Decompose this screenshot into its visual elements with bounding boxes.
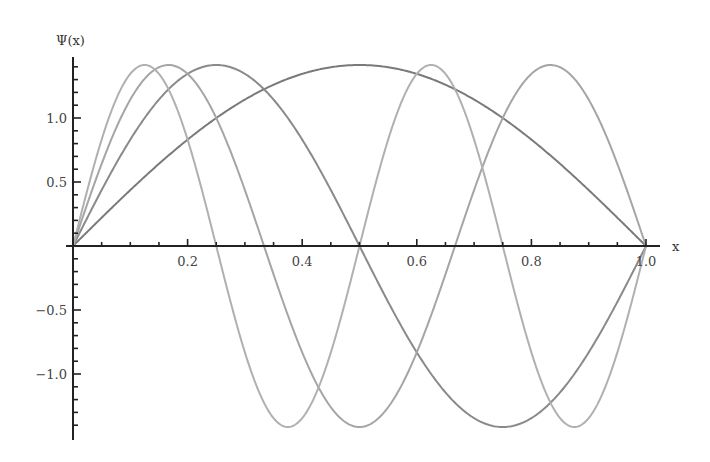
curve-n-1	[73, 65, 646, 246]
y-tick-label: 0.5	[46, 175, 67, 190]
y-tick-label: 1.0	[46, 111, 67, 126]
x-tick-label: 0.4	[292, 254, 313, 269]
x-tick-label: 0.2	[177, 254, 198, 269]
chart: 0.20.40.60.81.0 −1.0−0.50.51.0 x Ψ(x)	[0, 0, 710, 462]
x-tick-label: 0.8	[521, 254, 542, 269]
axes: 0.20.40.60.81.0 −1.0−0.50.51.0	[35, 57, 660, 440]
x-tick-label: 1.0	[636, 254, 657, 269]
y-tick-label: −1.0	[35, 367, 67, 382]
x-tick-label: 0.6	[406, 254, 427, 269]
x-axis-title: x	[672, 239, 680, 254]
y-axis-title: Ψ(x)	[56, 33, 85, 48]
y-tick-label: −0.5	[35, 303, 67, 318]
x-ticks: 0.20.40.60.81.0	[102, 239, 657, 269]
